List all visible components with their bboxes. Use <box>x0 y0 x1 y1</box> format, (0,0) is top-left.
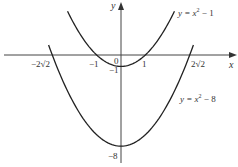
tick-y-neg8: −8 <box>108 151 118 161</box>
curve2-label: y = x2 − 8 <box>179 93 216 104</box>
y-axis-arrow-icon <box>118 2 124 10</box>
x-axis-label: x <box>228 59 234 70</box>
curve1-label-rhs: − 1 <box>200 8 214 18</box>
tick-x-pos-2root2: 2√2 <box>191 59 205 69</box>
curve1-label: y = x2 − 1 <box>177 7 214 18</box>
curve1-label-lhs: y = x <box>177 8 197 18</box>
curve2-label-rhs: − 8 <box>202 94 217 104</box>
y-axis-label: y <box>110 0 116 11</box>
tick-x-pos1: 1 <box>142 59 147 69</box>
parabola-chart: y x −2√2 −1 0 −1 1 2√2 −8 y = x2 − 1 y =… <box>0 0 238 167</box>
tick-y-neg1: −1 <box>109 65 119 75</box>
x-axis-arrow-icon <box>229 52 237 58</box>
tick-x-neg-2root2: −2√2 <box>31 59 50 69</box>
axes <box>4 2 237 163</box>
curve2-label-lhs: y = x <box>179 94 199 104</box>
tick-x-neg1: −1 <box>89 59 99 69</box>
